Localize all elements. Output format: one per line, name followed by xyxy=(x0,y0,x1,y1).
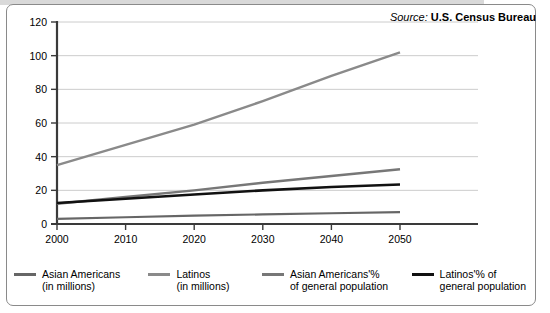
legend-item[interactable]: Latinos(in millions) xyxy=(148,268,262,292)
x-tick-label: 2030 xyxy=(251,233,275,245)
x-tick-label: 2010 xyxy=(114,233,138,245)
legend-swatch xyxy=(262,273,284,276)
chart-legend: Asian Americans(in millions)Latinos(in m… xyxy=(14,268,526,292)
series-line xyxy=(57,212,400,219)
source-attribution: Source: U.S. Census Bureau xyxy=(390,10,536,24)
legend-label: Latinos'% ofgeneral population xyxy=(440,268,526,292)
chart-figure: 020406080100120 200020102020203020402050… xyxy=(0,0,550,313)
y-tick-label: 100 xyxy=(29,50,47,62)
legend-item[interactable]: Asian Americans'%of general population xyxy=(262,268,412,292)
x-tick-label: 2000 xyxy=(45,233,69,245)
legend-swatch xyxy=(14,273,36,276)
y-tick-label: 120 xyxy=(29,16,47,28)
y-tick-label: 40 xyxy=(35,151,47,163)
legend-label-line1: Latinos xyxy=(176,268,229,280)
legend-label-line2: (in millions) xyxy=(176,280,229,292)
source-label: Source: xyxy=(390,11,428,23)
y-tick-label: 80 xyxy=(35,83,47,95)
gridlines-group xyxy=(57,22,478,190)
y-tick-label: 0 xyxy=(41,218,47,230)
line-chart-plot: 020406080100120 200020102020203020402050 xyxy=(0,0,550,313)
legend-item[interactable]: Latinos'% ofgeneral population xyxy=(412,268,526,292)
y-tick-group: 020406080100120 xyxy=(29,16,57,230)
legend-label: Asian Americans'%of general population xyxy=(290,268,388,292)
legend-label-line1: Asian Americans'% xyxy=(290,268,388,280)
legend-swatch xyxy=(148,273,170,276)
y-tick-label: 60 xyxy=(35,117,47,129)
series-line xyxy=(57,52,400,165)
y-tick-label: 20 xyxy=(35,184,47,196)
legend-label-line2: (in millions) xyxy=(42,280,120,292)
data-series-group xyxy=(57,52,400,219)
legend-label-line1: Latinos'% of xyxy=(440,268,526,280)
x-tick-label: 2040 xyxy=(320,233,344,245)
source-name: U.S. Census Bureau xyxy=(431,11,536,23)
x-tick-label: 2020 xyxy=(183,233,207,245)
legend-item[interactable]: Asian Americans(in millions) xyxy=(14,268,148,292)
legend-label: Latinos(in millions) xyxy=(176,268,229,292)
legend-swatch xyxy=(412,273,434,276)
legend-label-line1: Asian Americans xyxy=(42,268,120,280)
legend-label-line2: of general population xyxy=(290,280,388,292)
legend-label-line2: general population xyxy=(440,280,526,292)
x-tick-label: 2050 xyxy=(388,233,412,245)
x-tick-group: 200020102020203020402050 xyxy=(45,224,412,245)
legend-label: Asian Americans(in millions) xyxy=(42,268,120,292)
